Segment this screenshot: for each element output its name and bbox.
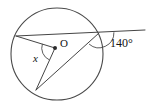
unknown-angle-label-x: x (33, 53, 38, 64)
geometry-figure: O x 140° (0, 0, 150, 106)
known-angle-label-140: 140° (110, 37, 133, 49)
radius-line-OA (16, 36, 55, 48)
centre-label-O: O (60, 38, 68, 49)
circle-outline (11, 8, 103, 100)
geometry-canvas (0, 0, 150, 106)
centre-point-dot (53, 46, 57, 50)
radius-line-OB (36, 48, 55, 90)
